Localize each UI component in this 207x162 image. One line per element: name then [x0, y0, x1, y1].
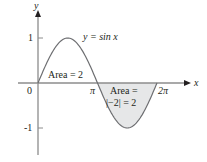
x-tick-label-0: 0: [27, 85, 32, 96]
y-tick-label-1: 1: [28, 32, 33, 43]
function-label: y = sin x: [82, 31, 118, 42]
y-tick-label-neg1: -1: [24, 122, 32, 133]
area-label-positive: Area = 2: [48, 69, 83, 80]
y-axis-label: y: [33, 0, 39, 11]
area-label-negative-line2: |−2| = 2: [106, 97, 136, 108]
x-tick-label-pi: π: [90, 85, 96, 96]
sine-area-chart: y x 1 -1 0 π 2π y = sin x Area = 2 Area …: [0, 0, 207, 162]
y-axis-arrow-icon: [35, 10, 41, 17]
area-label-negative-line1: Area =: [110, 85, 138, 96]
x-axis-label: x: [193, 77, 199, 88]
x-axis-arrow-icon: [184, 80, 191, 86]
x-tick-label-2pi: 2π: [158, 85, 169, 96]
